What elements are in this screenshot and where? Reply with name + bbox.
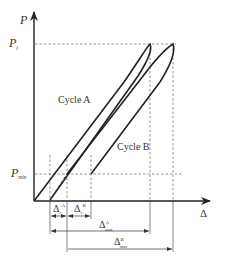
- dimension-arrows: [51, 216, 172, 249]
- hysteresis-diagram: P Δ Pi Pmin Cycle A Cycle B ΔrA ΔrB ΔAma…: [0, 0, 227, 264]
- delta-r-a-label: ΔrA: [53, 203, 65, 215]
- delta-max-b-label: ΔBmax: [114, 236, 127, 249]
- p-i-label: Pi: [8, 36, 18, 51]
- cycle-a-label: Cycle A: [58, 94, 91, 105]
- x-axis-label: Δ: [200, 207, 207, 219]
- cycle-b-loop: [67, 44, 174, 174]
- p-min-label: Pmin: [10, 166, 27, 180]
- cycle-b-label: Cycle B: [117, 141, 150, 152]
- guide-lines: [35, 44, 182, 200]
- cycle-a-loop: [34, 44, 151, 201]
- delta-max-a-label: ΔAmax: [99, 219, 113, 232]
- delta-r-b-label: ΔrB: [74, 203, 86, 215]
- y-axis-label: P: [19, 13, 28, 27]
